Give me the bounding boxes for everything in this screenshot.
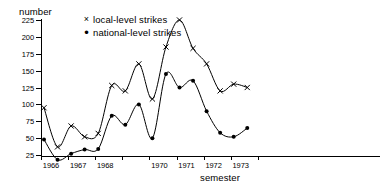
data-point-marker xyxy=(110,114,114,118)
data-point-marker xyxy=(150,96,155,101)
data-point-marker xyxy=(109,83,114,88)
data-point-marker xyxy=(232,135,236,139)
data-point-marker xyxy=(42,137,46,141)
data-point-marker xyxy=(96,131,101,136)
data-point-marker xyxy=(190,46,195,51)
data-point-marker xyxy=(150,136,154,140)
data-point-marker xyxy=(96,147,100,151)
data-point-marker xyxy=(205,109,209,113)
data-point-marker xyxy=(83,148,87,152)
data-point-marker xyxy=(123,123,127,127)
data-point-marker xyxy=(56,158,60,162)
data-point-marker xyxy=(82,134,87,139)
data-point-marker xyxy=(137,102,141,106)
x-axis-label: semester xyxy=(0,172,392,183)
data-point-marker xyxy=(218,131,222,135)
data-point-marker xyxy=(178,86,182,90)
data-point-marker xyxy=(69,152,73,156)
data-point-marker xyxy=(41,105,46,110)
x-axis-label-text: semester xyxy=(200,172,240,183)
series-local-level xyxy=(41,17,249,149)
data-point-marker xyxy=(218,88,223,93)
data-point-marker xyxy=(245,85,250,90)
data-point-marker xyxy=(204,61,209,66)
data-point-marker xyxy=(245,126,249,130)
data-point-marker xyxy=(163,44,168,49)
series-national-level xyxy=(42,72,249,162)
data-point-marker xyxy=(177,17,182,22)
data-point-marker xyxy=(191,79,195,83)
chart-figure: number 255075100125150175200225 19661967… xyxy=(0,0,392,190)
data-point-marker xyxy=(164,72,168,76)
data-point-marker xyxy=(136,61,141,66)
plot-area xyxy=(0,0,392,190)
